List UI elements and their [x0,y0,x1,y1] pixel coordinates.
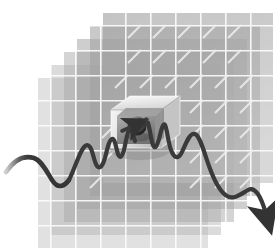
illustration-svg: Wave packet scattering from a localized … [0,0,275,249]
sphere-highlight [131,120,136,124]
figure-canvas: Wave packet scattering from a localized … [0,0,275,249]
